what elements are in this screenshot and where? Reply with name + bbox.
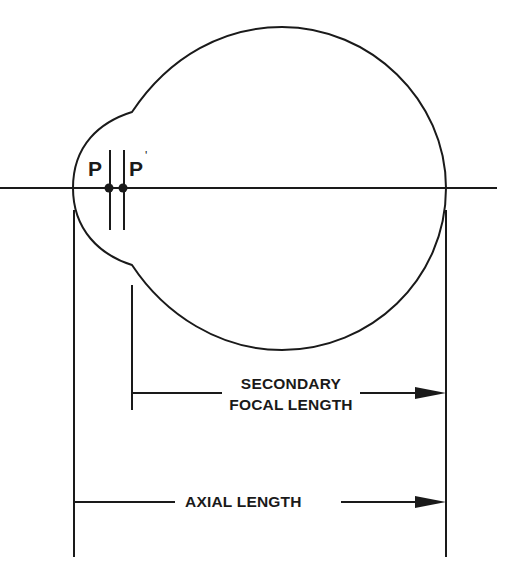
principal-point-p-prime-dot: [119, 184, 128, 193]
secondary-focal-length-line2: FOCAL LENGTH: [222, 394, 360, 415]
secondary-focal-length-label: SECONDARY FOCAL LENGTH: [222, 373, 360, 415]
axial-length-label: AXIAL LENGTH: [185, 494, 302, 510]
secondary-focal-length-line1: SECONDARY: [222, 373, 360, 394]
principal-point-p-prime-label: P: [129, 158, 143, 179]
axial-arrowhead: [415, 496, 446, 508]
secondary-focal-arrowhead: [415, 387, 446, 399]
prime-mark: ': [145, 150, 147, 162]
principal-point-p-label: P: [88, 158, 102, 179]
eye-diagram: [0, 0, 507, 570]
principal-point-p-dot: [105, 184, 114, 193]
